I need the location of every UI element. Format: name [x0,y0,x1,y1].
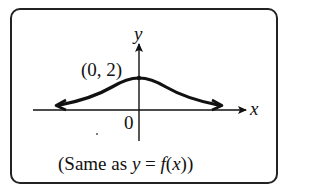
x-axis-label: x [250,99,258,118]
stray-dot [96,133,98,135]
caption-eq: = [140,153,160,174]
y-axis-label: y [134,24,142,43]
caption-x: x [172,153,180,174]
caption: (Same as y = f(x)) [58,154,193,173]
point-label: (0, 2) [81,60,122,79]
origin-label: 0 [124,113,134,132]
caption-prefix: (Same as [58,153,132,174]
caption-close: )) [181,153,194,174]
point-0-2 [137,76,141,80]
